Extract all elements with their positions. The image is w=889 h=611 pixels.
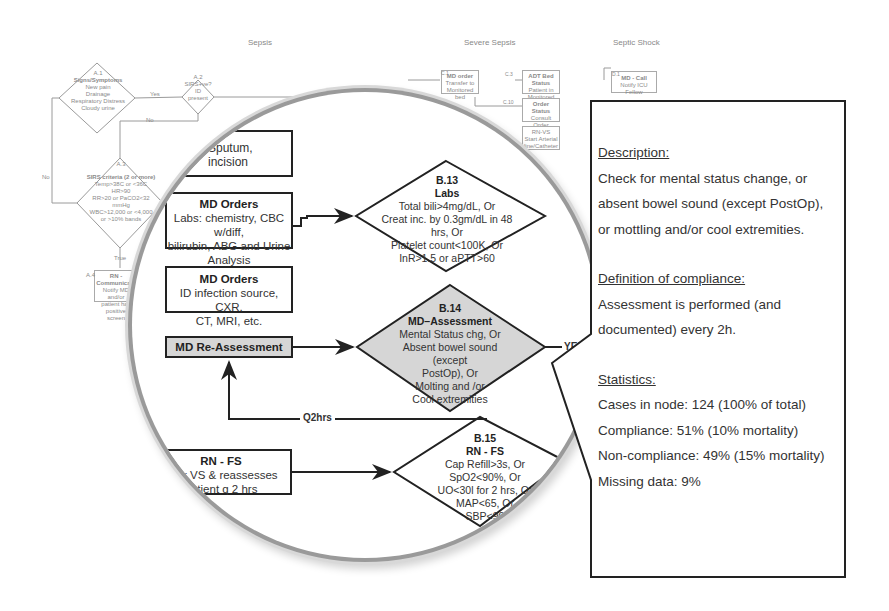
statistics-noncompliance: Non-compliance: 49% (15% mortality) [598, 443, 843, 469]
statistics-heading: Statistics: [598, 367, 843, 393]
description-heading: Description: [598, 140, 843, 166]
statistics-cases: Cases in node: 124 (100% of total) [598, 392, 843, 418]
compliance-heading: Definition of compliance: [598, 266, 843, 292]
description-line: absent bowel sound (except PostOp), [598, 191, 843, 217]
compliance-line: Assessment is performed (and [598, 292, 843, 318]
statistics-missing: Missing data: 9% [598, 469, 843, 495]
node-details-callout: Description: Check for mental status cha… [598, 140, 843, 494]
statistics-compliance: Compliance: 51% (10% mortality) [598, 418, 843, 444]
compliance-line: documented) every 2h. [598, 317, 843, 343]
description-line: or mottling and/or cool extremities. [598, 217, 843, 243]
description-line: Check for mental status change, or [598, 166, 843, 192]
